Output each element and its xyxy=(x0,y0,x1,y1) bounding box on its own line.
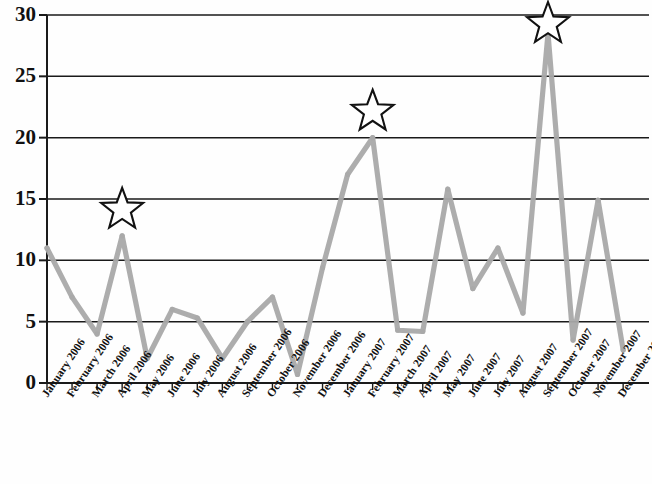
data-point-marker xyxy=(395,328,400,333)
data-point-marker xyxy=(245,319,250,324)
data-point-marker xyxy=(295,372,300,377)
data-point-marker xyxy=(370,135,375,140)
data-point-marker xyxy=(120,233,125,238)
data-point-marker xyxy=(170,307,175,312)
star-annotation-icon xyxy=(352,90,394,130)
data-point-marker xyxy=(320,265,325,270)
data-point-marker xyxy=(495,245,500,250)
data-point-marker xyxy=(345,172,350,177)
data-point-marker xyxy=(445,187,450,192)
data-point-marker xyxy=(520,310,525,315)
y-axis-tick-label: 0 xyxy=(2,372,36,393)
line-chart: 051015202530 January 2006February 2006Ma… xyxy=(0,0,652,484)
data-point-marker xyxy=(420,329,425,334)
y-axis-tick-label: 25 xyxy=(2,65,36,86)
data-point-marker xyxy=(195,315,200,320)
y-axis-tick-label: 10 xyxy=(2,249,36,270)
data-point-marker xyxy=(95,331,100,336)
plot-area xyxy=(0,0,652,484)
y-axis-tick-label: 5 xyxy=(2,311,36,332)
data-point-marker xyxy=(470,286,475,291)
data-point-marker xyxy=(596,198,601,203)
data-point-marker xyxy=(44,245,49,250)
y-axis-tick-label: 30 xyxy=(2,4,36,25)
star-annotation-icon xyxy=(101,188,143,228)
data-point-marker xyxy=(69,295,74,300)
data-point-marker xyxy=(270,295,275,300)
y-axis-tick-label: 15 xyxy=(2,188,36,209)
y-axis-tick-label: 20 xyxy=(2,127,36,148)
